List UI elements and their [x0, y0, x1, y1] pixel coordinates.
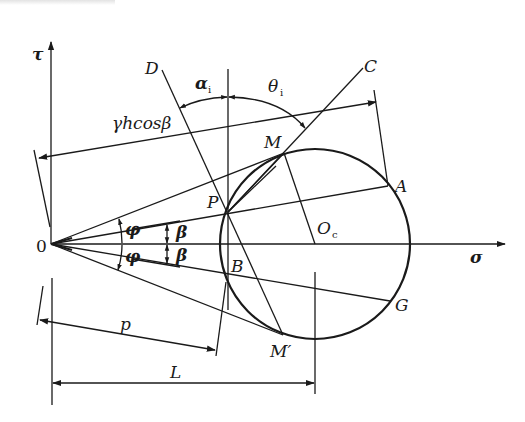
phi-upper-label: φ — [125, 219, 141, 239]
point-C-label: C — [364, 56, 377, 76]
radius-M-Oc — [284, 153, 315, 244]
dim-ext-left — [34, 150, 50, 227]
phi-upper-arc — [119, 219, 122, 243]
p-ext-left — [37, 286, 43, 325]
point-M-label: M — [263, 132, 282, 152]
point-D-label: D — [144, 58, 159, 78]
point-A-label: A — [393, 176, 407, 196]
center-Oc-label: O c — [317, 218, 338, 240]
angle-arcs-top — [180, 97, 305, 128]
alpha-arc — [180, 97, 227, 108]
origin-label: 0 — [36, 236, 47, 256]
labels: τ σ 0 D C M A P B G M′ O c α i θ i φ φ β… — [32, 44, 483, 382]
theta-subscript: i — [280, 87, 283, 98]
alpha-subscript: i — [208, 84, 211, 95]
sigma-label: σ — [470, 247, 483, 267]
L-label: L — [169, 362, 181, 382]
point-G-label: G — [395, 295, 409, 315]
phi-lower-label: φ — [125, 246, 141, 266]
dimension-p — [37, 282, 226, 356]
p-label: p — [120, 314, 131, 334]
theta-i-label: θ i — [268, 76, 283, 98]
tau-label: τ — [32, 44, 44, 64]
p-ext-right — [216, 282, 226, 356]
center-c-subscript: c — [332, 229, 338, 240]
phi-lower-arc — [118, 245, 122, 270]
gamma-h-cos-beta-label: γhcosβ — [112, 113, 172, 133]
point-M-prime-label: M′ — [269, 341, 291, 361]
beta-upper-label: β — [175, 222, 187, 242]
point-P-label: P — [206, 192, 219, 212]
center-O-letter: O — [317, 218, 331, 238]
theta-arc — [229, 97, 305, 128]
point-B-label: B — [230, 256, 244, 276]
beta-lower-label: β — [175, 245, 187, 265]
theta-letter: θ — [268, 76, 278, 96]
alpha-letter: α — [195, 73, 208, 93]
alpha-i-label: α i — [195, 73, 211, 95]
mohr-circle-diagram: τ σ 0 D C M A P B G M′ O c α i θ i φ φ β… — [0, 0, 525, 422]
